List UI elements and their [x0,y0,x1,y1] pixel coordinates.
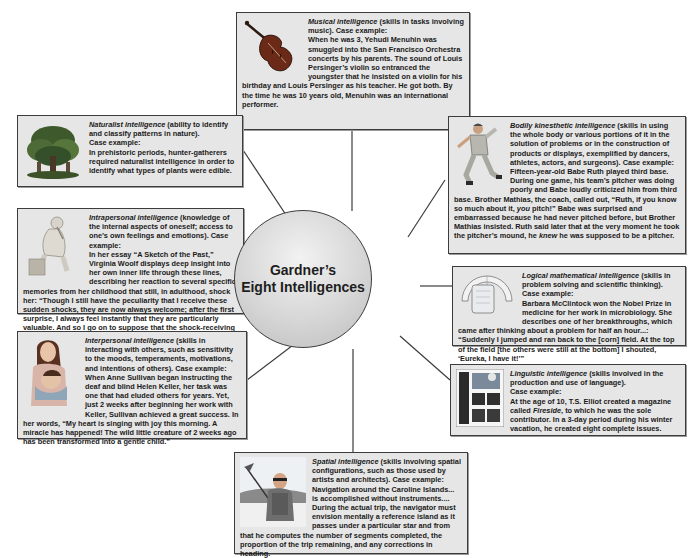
mother-child-icon [23,336,79,410]
interpersonal-title: Interpersonal intelligence [85,336,174,345]
spatial-title: Spatial intelligence [312,457,379,466]
intrapersonal-intelligence-box: Intrapersonal intelligence (knowledge of… [17,208,244,314]
interpersonal-intelligence-box: Interpersonal intelligence (skills in in… [17,331,247,439]
intrapersonal-title: Intrapersonal intelligence [89,213,178,222]
musical-intelligence-box: Musical intelligence (skills in tasks in… [236,12,470,130]
gardners-eight-intelligences-hub: Gardner’s Eight Intelligences [234,210,372,348]
bodily-title: Bodily kinesthetic intelligence [510,121,615,130]
thinker-statue-icon [23,213,83,281]
baseball-pitcher-icon [454,121,504,191]
violin-icon [242,17,302,77]
connector-linguistic [400,336,450,380]
sailor-navigator-icon [240,457,306,529]
naturalist-title: Naturalist intelligence [89,120,165,129]
bodily-example-text-3: he was supposed to be a pitcher. [557,231,674,240]
logical-mathematical-intelligence-box: Logical mathematical intelligence (skill… [452,266,686,346]
lab-equipment-icon [458,271,516,319]
linguistic-example-emphasis: Fireside [533,406,561,415]
magazine-page-icon [456,369,504,429]
hub-title-line-2: Eight Intelligences [241,279,365,296]
spatial-intelligence-box: Spatial intelligence (skills involving s… [234,452,468,554]
connector-bodily [408,180,445,237]
bodily-example-emphasis-2: knew [539,231,557,240]
bodily-example-emphasis-1: you [517,204,530,213]
linguistic-intelligence-box: Linguistic intelligence (skills involved… [450,364,686,436]
tree-icon [23,120,83,182]
hub-title-line-1: Gardner’s [241,262,365,279]
logical-title: Logical mathematical intelligence [522,271,639,280]
naturalist-intelligence-box: Naturalist intelligence (ability to iden… [17,115,243,187]
musical-title: Musical intelligence [308,17,377,26]
linguistic-title: Linguistic intelligence [510,369,587,378]
bodily-kinesthetic-intelligence-box: Bodily kinesthetic intelligence (skills … [448,116,686,254]
